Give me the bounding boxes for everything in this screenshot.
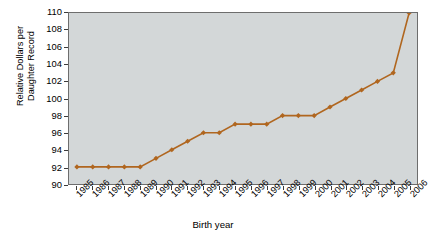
y-axis-tick-label: 104 (22, 59, 62, 68)
y-axis-tick-label: 94 (22, 145, 62, 154)
data-point-marker (296, 113, 301, 118)
data-point-marker (407, 13, 412, 16)
data-point-marker (90, 164, 95, 169)
data-point-marker (248, 122, 253, 127)
y-axis-tick-label: 106 (22, 42, 62, 51)
data-series-line (69, 13, 417, 184)
y-axis-title: Relative Dollars perDaughter Record (15, 0, 37, 146)
y-axis-tick-label: 96 (22, 128, 62, 137)
y-axis-tick-label: 110 (22, 7, 62, 16)
y-axis-tick-label: 92 (22, 163, 62, 172)
data-point-marker (106, 164, 111, 169)
x-axis-title: Birth year (0, 219, 426, 230)
y-axis-tick-label: 100 (22, 94, 62, 103)
y-axis-tick-label: 108 (22, 24, 62, 33)
y-axis-tick-label: 98 (22, 111, 62, 120)
y-axis-tick (64, 185, 68, 186)
plot-area (68, 12, 418, 185)
y-axis-tick-label: 90 (22, 180, 62, 189)
y-axis-tick-label: 102 (22, 76, 62, 85)
data-point-marker (122, 164, 127, 169)
data-point-marker (74, 164, 79, 169)
